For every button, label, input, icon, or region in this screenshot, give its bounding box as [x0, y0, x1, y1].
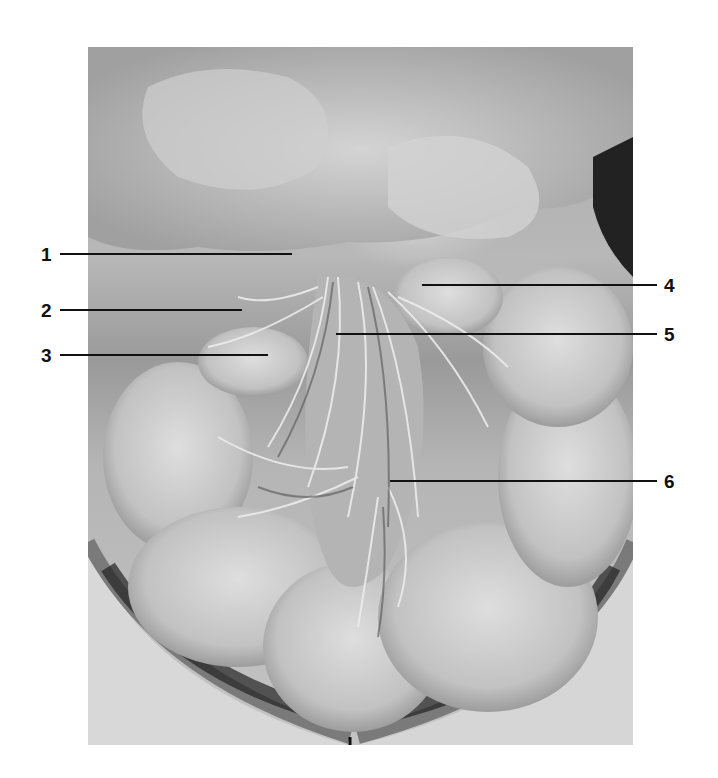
label-number-2: 2 [41, 301, 52, 320]
leader-line-5 [336, 333, 657, 335]
label-number-6: 6 [664, 472, 675, 491]
label-number-5: 5 [664, 325, 675, 344]
label-number-3: 3 [41, 346, 52, 365]
leader-line-3 [60, 354, 268, 356]
dissection-photo-illustration [88, 47, 633, 745]
leader-line-1 [60, 253, 292, 255]
leader-line-4 [422, 284, 657, 286]
label-number-4: 4 [664, 276, 675, 295]
leader-line-6 [390, 480, 657, 482]
label-number-1: 1 [41, 245, 52, 264]
leader-line-2 [60, 309, 242, 311]
dissection-photo [88, 47, 633, 745]
